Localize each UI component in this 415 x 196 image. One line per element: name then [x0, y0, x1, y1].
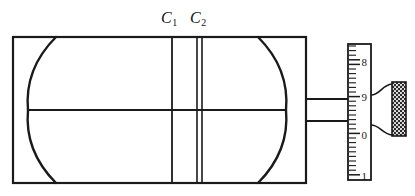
diagram-canvas: 8901: [0, 0, 415, 196]
ruler-number: 9: [362, 91, 368, 103]
ruler-number: 0: [362, 129, 368, 141]
knob-taper-top: [371, 84, 392, 95]
label-c2: C2: [190, 9, 206, 28]
label-c2-base: C: [190, 9, 201, 26]
ruler-number: 1: [362, 170, 368, 182]
optical-instrument-diagram: 8901 C1 C2: [0, 0, 415, 196]
label-c1: C1: [161, 9, 177, 28]
label-c1-base: C: [161, 9, 172, 26]
ruler-number: 8: [362, 56, 368, 68]
knob-taper-bottom: [371, 125, 392, 135]
label-c2-sub: 2: [201, 17, 206, 28]
label-c1-sub: 1: [172, 17, 177, 28]
knurled-adjustment-knob[interactable]: [392, 82, 406, 136]
